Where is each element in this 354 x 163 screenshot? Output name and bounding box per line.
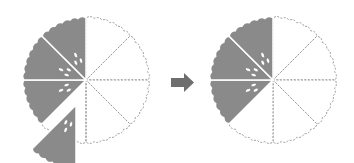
arrow-right-icon xyxy=(171,73,194,92)
right-pie xyxy=(210,17,337,144)
left-pie xyxy=(23,17,150,163)
fraction-diagram xyxy=(0,0,354,163)
